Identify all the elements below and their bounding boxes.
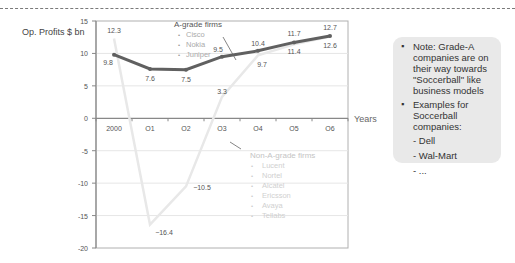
non-a-grade-legend-item: Avaya	[262, 201, 284, 210]
non-a-grade-legend-title: Non-A-grade firms	[250, 151, 315, 160]
svg-text:•: •	[178, 52, 180, 58]
note-box: Note: Grade-A companies are on their way…	[393, 37, 501, 163]
svg-text:•: •	[178, 32, 180, 38]
x-tick-label: O3	[217, 125, 226, 132]
a-grade-value-label: 12.7	[323, 24, 337, 31]
svg-text:•: •	[251, 193, 253, 199]
y-tick-label: -5	[82, 148, 88, 155]
non-a-grade-value-label: 12.3	[107, 27, 121, 34]
non-a-grade-value-label: −10.5	[193, 184, 211, 191]
note-example-2: - Wal-Mart	[413, 150, 497, 161]
y-tick-label: 10	[80, 50, 88, 57]
svg-text:•: •	[251, 163, 253, 169]
svg-text:•: •	[251, 203, 253, 209]
a-grade-legend-title: A-grade firms	[174, 20, 222, 29]
non-a-grade-legend-item: Alcatel	[262, 181, 285, 190]
a-grade-legend-item: Cisco	[186, 30, 205, 39]
y-tick-label: 0	[84, 115, 88, 122]
y-tick-label: -20	[78, 245, 88, 252]
svg-text:•: •	[178, 42, 180, 48]
y-tick-label: 15	[80, 18, 88, 25]
a-grade-value-label: 9.8	[103, 59, 113, 66]
a-grade-legend-item: Nokia	[186, 40, 206, 49]
y-tick-label: -15	[78, 213, 88, 220]
y-tick-label: 5	[84, 83, 88, 90]
non-a-grade-legend-item: Lucent	[262, 161, 285, 170]
a-grade-legend-item: Juniper	[186, 50, 211, 59]
x-tick-label: O1	[145, 125, 154, 132]
x-tick-label: O2	[181, 125, 190, 132]
a-grade-value-label: 10.4	[251, 40, 265, 47]
note-example-1: - Dell	[413, 135, 497, 146]
non-a-grade-legend-item: Nortel	[262, 171, 282, 180]
non-a-grade-legend-pointer	[230, 142, 241, 149]
svg-text:•: •	[251, 173, 253, 179]
note-bullet-1: Note: Grade-A companies are on their way…	[413, 41, 497, 96]
x-tick-label: O5	[289, 125, 298, 132]
a-grade-value-label: 11.7	[287, 30, 300, 37]
non-a-grade-value-label: 11.4	[287, 48, 300, 55]
non-a-grade-value-label: −16.4	[155, 229, 173, 236]
y-tick-label: -10	[78, 180, 88, 187]
x-tick-label: O6	[325, 125, 334, 132]
a-grade-value-label: 7.6	[145, 75, 155, 82]
a-grade-value-label: 7.5	[181, 76, 191, 83]
x-tick-label: O4	[253, 125, 262, 132]
non-a-grade-value-label: 9.7	[257, 61, 267, 68]
svg-text:•: •	[251, 213, 253, 219]
x-tick-label: 2000	[106, 125, 122, 132]
non-a-grade-value-label: 12.6	[323, 42, 337, 49]
non-a-grade-legend-item: Tellabs	[262, 211, 286, 220]
note-example-3: - ...	[413, 165, 497, 176]
non-a-grade-legend-item: Ericsson	[262, 191, 291, 200]
note-bullet-2: Examples for Soccerball companies:	[413, 99, 497, 132]
non-a-grade-value-label: 3.3	[217, 88, 227, 95]
a-grade-value-label: 9.5	[213, 46, 223, 53]
svg-text:•: •	[251, 183, 253, 189]
